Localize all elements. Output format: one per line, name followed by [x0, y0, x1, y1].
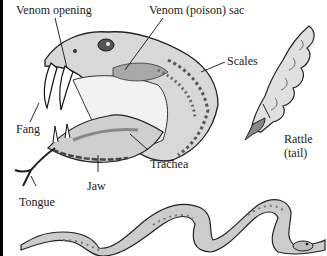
- label-fang: Fang: [16, 123, 40, 136]
- snake-body-drawing: [21, 200, 325, 256]
- label-scales: Scales: [227, 55, 258, 68]
- label-venom-sac: Venom (poison) sac: [149, 4, 244, 17]
- label-rattle-tail: (tail): [284, 147, 307, 160]
- label-trachea: Trachea: [150, 158, 188, 171]
- label-jaw: Jaw: [87, 180, 106, 193]
- label-rattle: Rattle: [284, 133, 313, 146]
- label-venom-opening: Venom opening: [16, 4, 92, 17]
- rattle-drawing: [245, 26, 314, 140]
- snake-illustration: [3, 0, 327, 256]
- label-tongue: Tongue: [19, 196, 55, 209]
